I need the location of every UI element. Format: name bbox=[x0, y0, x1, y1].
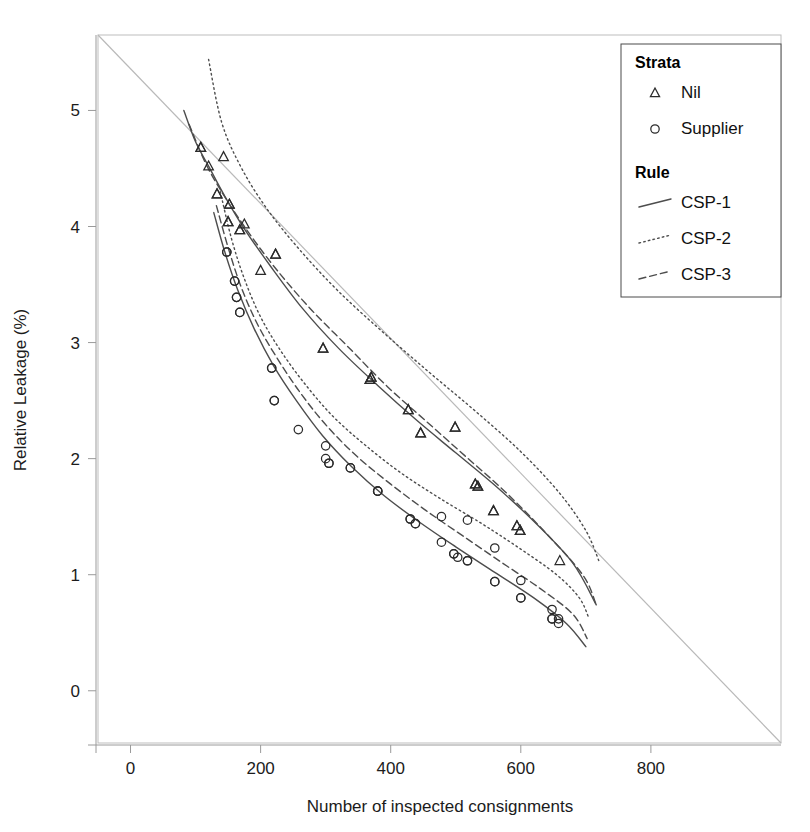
x-tick-label: 0 bbox=[126, 759, 135, 778]
x-axis-title: Number of inspected consignments bbox=[307, 797, 573, 816]
x-tick-label: 800 bbox=[637, 759, 665, 778]
x-tick-label: 600 bbox=[507, 759, 535, 778]
legend: StrataNilSupplierRuleCSP-1CSP-2CSP-3 bbox=[621, 44, 781, 297]
x-tick-label: 400 bbox=[377, 759, 405, 778]
legend-label-supplier: Supplier bbox=[681, 119, 744, 138]
x-tick-label: 200 bbox=[246, 759, 274, 778]
y-tick-label: 4 bbox=[71, 218, 80, 237]
legend-heading-rule: Rule bbox=[635, 164, 670, 181]
y-axis-title: Relative Leakage (%) bbox=[11, 309, 30, 472]
y-tick-label: 1 bbox=[71, 566, 80, 585]
y-tick-label: 5 bbox=[71, 101, 80, 120]
y-tick-label: 2 bbox=[71, 450, 80, 469]
legend-label-csp-1: CSP-1 bbox=[681, 193, 731, 212]
legend-label-csp-2: CSP-2 bbox=[681, 229, 731, 248]
legend-heading-strata: Strata bbox=[635, 54, 680, 71]
chart-figure: 0200400600800 012345 Number of inspected… bbox=[0, 0, 810, 832]
legend-label-csp-3: CSP-3 bbox=[681, 265, 731, 284]
legend-label-nil: Nil bbox=[681, 83, 701, 102]
chart-canvas: 0200400600800 012345 Number of inspected… bbox=[0, 0, 810, 832]
y-tick-label: 0 bbox=[71, 682, 80, 701]
y-tick-label: 3 bbox=[71, 334, 80, 353]
